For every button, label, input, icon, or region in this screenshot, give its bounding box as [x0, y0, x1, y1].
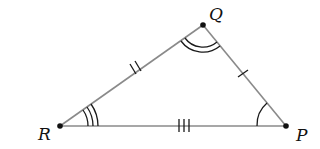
triangle-sides	[60, 25, 286, 126]
vertex-label-Q: Q	[209, 4, 223, 24]
angle-Q-double-arc	[181, 38, 220, 52]
vertex-P	[283, 123, 289, 129]
side-QP	[203, 25, 286, 126]
vertex-R	[57, 123, 63, 129]
side-RQ-double-tick	[130, 61, 141, 74]
triangle-diagram: Q R P	[0, 0, 320, 149]
vertex-Q	[200, 22, 206, 28]
angle-P-single-arc	[257, 103, 267, 126]
side-QP-single-tick	[238, 70, 248, 77]
vertices	[57, 22, 289, 129]
vertex-label-P: P	[295, 125, 308, 145]
vertex-label-R: R	[37, 124, 51, 144]
side-RQ	[60, 25, 203, 126]
